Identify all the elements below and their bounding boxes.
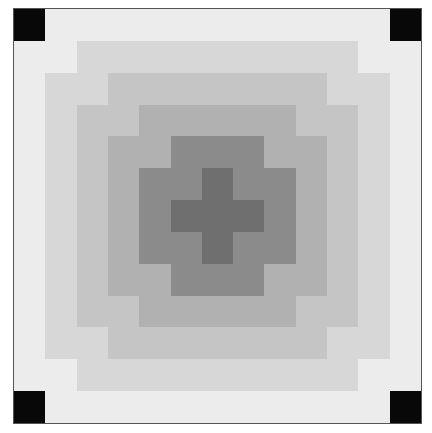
- board-cell[interactable]: [233, 232, 264, 264]
- board-cell[interactable]: [202, 168, 233, 200]
- board-cell[interactable]: [296, 200, 327, 232]
- board-cell[interactable]: [264, 264, 295, 296]
- board-cell[interactable]: [264, 359, 295, 391]
- board-cell[interactable]: [264, 296, 295, 328]
- board-cell[interactable]: [358, 168, 389, 200]
- board-cell[interactable]: [108, 73, 139, 105]
- board-cell[interactable]: [171, 105, 202, 137]
- board-cell[interactable]: [202, 359, 233, 391]
- board-cell[interactable]: [390, 200, 421, 232]
- board-cell[interactable]: [390, 105, 421, 137]
- board-cell[interactable]: [171, 327, 202, 359]
- board-cell[interactable]: [139, 359, 170, 391]
- board-cell[interactable]: [171, 264, 202, 296]
- board-cell[interactable]: [139, 9, 170, 41]
- board-cell[interactable]: [139, 296, 170, 328]
- board-cell[interactable]: [108, 359, 139, 391]
- board-cell[interactable]: [108, 264, 139, 296]
- board-cell[interactable]: [202, 9, 233, 41]
- board-cell[interactable]: [233, 168, 264, 200]
- board-cell[interactable]: [296, 136, 327, 168]
- board-cell[interactable]: [358, 41, 389, 73]
- board-cell[interactable]: [171, 73, 202, 105]
- board-cell[interactable]: [171, 296, 202, 328]
- board-cell[interactable]: [358, 359, 389, 391]
- board-cell[interactable]: [233, 296, 264, 328]
- board-cell[interactable]: [264, 105, 295, 137]
- board-cell[interactable]: [45, 359, 76, 391]
- board-cell[interactable]: [139, 105, 170, 137]
- board-cell[interactable]: [327, 136, 358, 168]
- board-cell[interactable]: [358, 200, 389, 232]
- board-cell[interactable]: [45, 9, 76, 41]
- board-cell[interactable]: [296, 391, 327, 423]
- board-cell[interactable]: [296, 264, 327, 296]
- board-cell[interactable]: [358, 327, 389, 359]
- board-cell[interactable]: [233, 200, 264, 232]
- board-cell[interactable]: [327, 232, 358, 264]
- board-cell[interactable]: [171, 200, 202, 232]
- board-cell[interactable]: [233, 105, 264, 137]
- board-cell[interactable]: [296, 168, 327, 200]
- board-cell[interactable]: [358, 136, 389, 168]
- board-cell[interactable]: [233, 391, 264, 423]
- board-cell[interactable]: [202, 327, 233, 359]
- board-cell[interactable]: [45, 105, 76, 137]
- board-cell[interactable]: [45, 168, 76, 200]
- board-cell[interactable]: [202, 200, 233, 232]
- board-cell[interactable]: [45, 232, 76, 264]
- board-cell[interactable]: [327, 9, 358, 41]
- board-cell[interactable]: [233, 327, 264, 359]
- board-cell[interactable]: [171, 359, 202, 391]
- board-cell[interactable]: [14, 73, 45, 105]
- board-cell[interactable]: [327, 200, 358, 232]
- board-cell[interactable]: [45, 136, 76, 168]
- board-cell[interactable]: [77, 327, 108, 359]
- board-cell[interactable]: [296, 327, 327, 359]
- board-cell[interactable]: [327, 296, 358, 328]
- board-cell[interactable]: [233, 41, 264, 73]
- board-cell[interactable]: [171, 168, 202, 200]
- board-cell[interactable]: [14, 264, 45, 296]
- board-cell[interactable]: [14, 105, 45, 137]
- board-cell[interactable]: [264, 168, 295, 200]
- board-cell[interactable]: [202, 41, 233, 73]
- board-cell[interactable]: [264, 136, 295, 168]
- board-cell[interactable]: [358, 73, 389, 105]
- board-cell[interactable]: [171, 41, 202, 73]
- board-cell[interactable]: [108, 168, 139, 200]
- board-cell[interactable]: [139, 200, 170, 232]
- board-cell[interactable]: [233, 73, 264, 105]
- board-cell[interactable]: [202, 73, 233, 105]
- board-cell[interactable]: [202, 391, 233, 423]
- black-corner-cell[interactable]: [390, 391, 421, 423]
- board-cell[interactable]: [77, 359, 108, 391]
- board-cell[interactable]: [139, 391, 170, 423]
- board-cell[interactable]: [108, 41, 139, 73]
- board-cell[interactable]: [296, 105, 327, 137]
- board-cell[interactable]: [45, 391, 76, 423]
- board-cell[interactable]: [139, 327, 170, 359]
- board-cell[interactable]: [45, 41, 76, 73]
- board-cell[interactable]: [327, 264, 358, 296]
- board-cell[interactable]: [108, 9, 139, 41]
- board-cell[interactable]: [202, 105, 233, 137]
- board-cell[interactable]: [296, 296, 327, 328]
- board-cell[interactable]: [45, 200, 76, 232]
- board-cell[interactable]: [14, 327, 45, 359]
- board-cell[interactable]: [139, 232, 170, 264]
- board-cell[interactable]: [139, 73, 170, 105]
- board-cell[interactable]: [14, 41, 45, 73]
- board-cell[interactable]: [77, 391, 108, 423]
- board-cell[interactable]: [139, 168, 170, 200]
- board-cell[interactable]: [358, 296, 389, 328]
- board-cell[interactable]: [171, 391, 202, 423]
- board-cell[interactable]: [77, 9, 108, 41]
- board-cell[interactable]: [108, 232, 139, 264]
- board-cell[interactable]: [358, 391, 389, 423]
- board-cell[interactable]: [327, 327, 358, 359]
- board-cell[interactable]: [14, 359, 45, 391]
- board-cell[interactable]: [264, 9, 295, 41]
- board-cell[interactable]: [233, 359, 264, 391]
- board-cell[interactable]: [327, 41, 358, 73]
